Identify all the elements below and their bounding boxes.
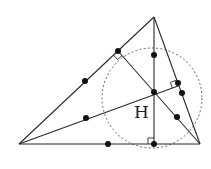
point-dot xyxy=(151,52,157,58)
point-dot xyxy=(151,141,157,147)
point-dot xyxy=(105,141,111,147)
triangle-and-altitudes xyxy=(19,17,200,144)
point-dot xyxy=(82,78,88,84)
point-dot xyxy=(151,89,157,95)
nine-points xyxy=(82,48,185,147)
right-angle-mark-ac xyxy=(114,55,122,60)
point-dot xyxy=(83,115,89,121)
altitude-from-b xyxy=(118,51,200,144)
nine-point-circle xyxy=(102,48,202,148)
point-dot xyxy=(175,80,181,86)
nine-point-circle-diagram: H xyxy=(0,0,211,169)
point-dot xyxy=(174,114,180,120)
point-dot xyxy=(115,48,121,54)
point-dot xyxy=(179,90,185,96)
orthocenter-label: H xyxy=(134,102,149,122)
right-angle-marks xyxy=(114,55,176,144)
